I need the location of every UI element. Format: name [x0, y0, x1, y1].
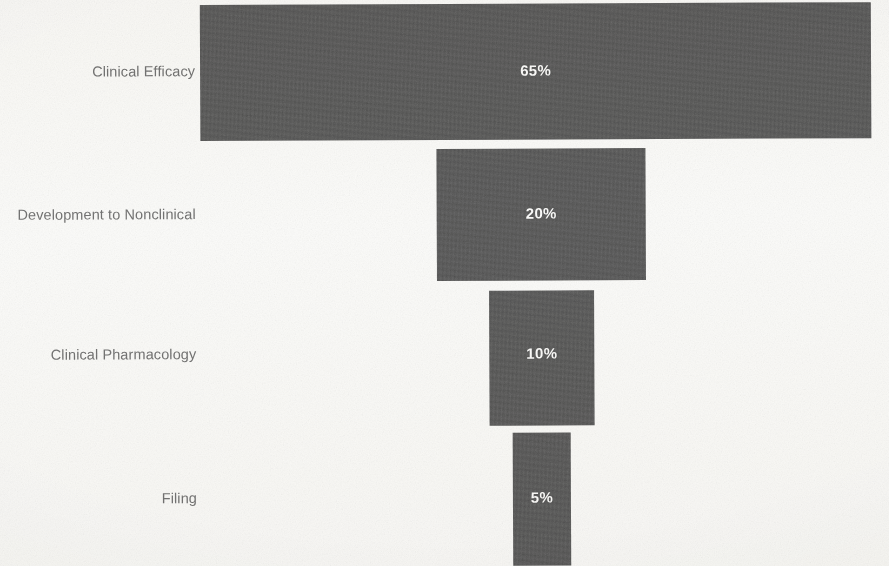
- funnel-bar-value-filing: 5%: [513, 488, 571, 505]
- funnel-label-clinical-efficacy: Clinical Efficacy: [0, 63, 195, 80]
- funnel-bar-value-clinical-pharmacology: 10%: [489, 344, 594, 361]
- funnel-bar-value-clinical-efficacy: 65%: [200, 60, 871, 80]
- scanned-plate: 65% Clinical Efficacy 20% Development to…: [0, 0, 889, 566]
- funnel-label-filing: Filing: [1, 490, 197, 507]
- funnel-chart-figure: 65% Clinical Efficacy 20% Development to…: [0, 0, 889, 566]
- funnel-bar-value-development-to-nonclinical: 20%: [437, 204, 646, 222]
- funnel-label-clinical-pharmacology: Clinical Pharmacology: [0, 346, 196, 363]
- funnel-label-development-to-nonclinical: Development to Nonclinical: [0, 206, 196, 223]
- funnel-plot-area: 65% Clinical Efficacy 20% Development to…: [0, 0, 889, 566]
